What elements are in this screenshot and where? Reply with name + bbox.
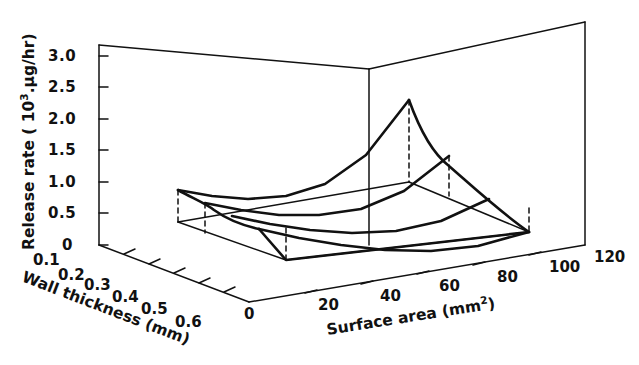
surface-rib-wall-0.2 [205, 156, 449, 215]
z-tick-1-5: 1.5 [48, 141, 76, 159]
figure-3d-surface-plot: Release rate ( 103.µg/hr) 0 0.5 1.0 1.5 … [0, 0, 639, 365]
x-tick-0-1: 0.1 [33, 251, 60, 269]
drop-lines [178, 100, 529, 260]
z-tick-2-5: 2.5 [48, 78, 76, 96]
y-tick-20: 20 [318, 296, 339, 314]
surface-mesh [178, 100, 529, 251]
y-tick-120: 120 [594, 248, 625, 266]
surface-rib-wall-0.3 [232, 199, 489, 233]
surface-rib-wall-0.1 [178, 100, 409, 199]
z-tick-0-5: 0.5 [48, 204, 76, 222]
wall-thickness-ticks [124, 249, 235, 292]
surface-front-skirt [259, 229, 529, 260]
surface-edge-area-120 [409, 100, 529, 232]
footprint-edge-wall-0.45 [286, 232, 529, 260]
y-tick-40: 40 [380, 287, 401, 305]
surface-side-faces [178, 100, 529, 260]
z-tick-0: 0 [62, 236, 73, 254]
z-axis-ticks [99, 56, 108, 245]
y-tick-60: 60 [439, 277, 460, 295]
y-tick-0: 0 [244, 305, 254, 323]
z-axis-title-suffix: .µg/hr) [20, 34, 38, 94]
z-axis-title: Release rate ( 103.µg/hr) [18, 34, 38, 251]
y-tick-100: 100 [549, 258, 580, 276]
back-panel-left-top [99, 45, 369, 69]
back-panel-right-top [369, 22, 585, 69]
z-axis-title-prefix: Release rate ( 10 [20, 101, 38, 250]
z-tick-2-0: 2.0 [48, 110, 76, 128]
y-tick-80: 80 [497, 268, 518, 286]
z-axis-title-exponent: 3 [18, 93, 30, 100]
z-tick-1-0: 1.0 [48, 173, 76, 191]
z-tick-3-0: 3.0 [48, 47, 76, 65]
